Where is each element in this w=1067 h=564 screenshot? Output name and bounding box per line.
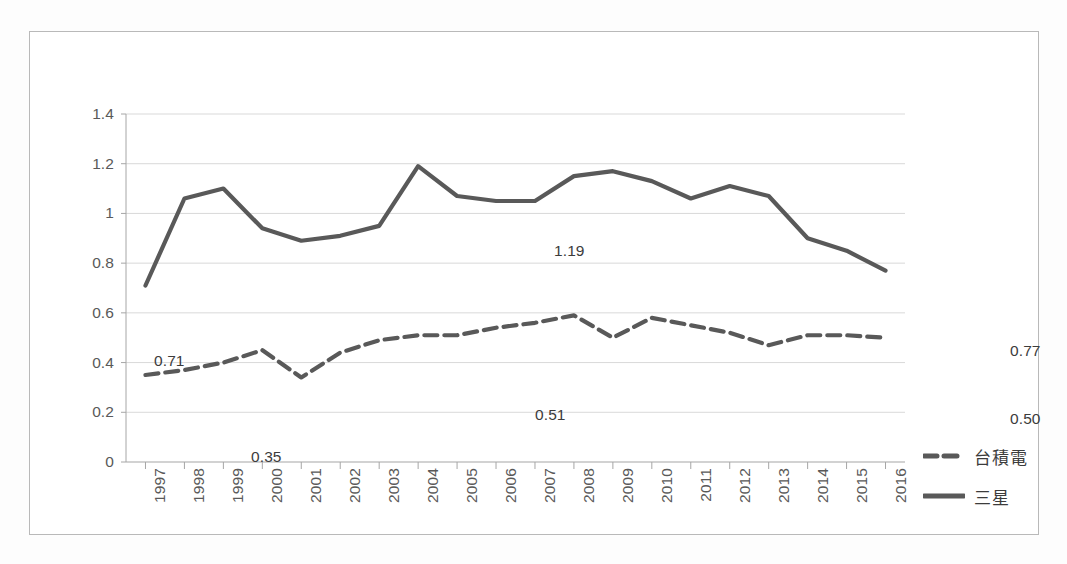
legend-swatch-dashed	[923, 449, 965, 463]
scan-area: 00.20.40.60.811.21.4 0.711.190.770.350.5…	[0, 0, 1067, 564]
x-tick-label: 2012	[736, 468, 754, 503]
y-axis: 00.20.40.60.811.21.4	[62, 114, 114, 462]
legend-label: 台積電	[974, 444, 1028, 469]
data-label: 0.50	[1010, 410, 1041, 428]
series-line-1	[145, 315, 885, 377]
x-tick-label: 2000	[268, 468, 286, 503]
y-tick-label: 0.8	[66, 254, 114, 272]
x-axis: 1997199819992000200120022003200420052006…	[126, 466, 905, 532]
x-tick-label: 2008	[580, 468, 598, 503]
y-tick-label: 0.2	[66, 403, 114, 421]
legend-item-1[interactable]: 台積電	[923, 436, 1053, 476]
data-label: 0.71	[154, 352, 185, 370]
x-tick-label: 2003	[385, 468, 403, 503]
x-tick-label: 1997	[151, 468, 169, 503]
x-tick-label: 2001	[307, 468, 325, 503]
data-label: 0.51	[535, 406, 566, 424]
legend-item-2[interactable]: 三星	[923, 476, 1053, 516]
x-tick-label: 2009	[619, 468, 637, 503]
x-tick-label: 2005	[463, 468, 481, 503]
plot-svg	[126, 114, 905, 462]
x-tick-label: 2004	[424, 468, 442, 503]
legend-label: 三星	[974, 484, 1010, 509]
x-tick-label: 2011	[697, 468, 715, 502]
chart-legend: 台積電三星	[923, 436, 1053, 516]
y-tick-label: 0.4	[66, 354, 114, 372]
series-line-2	[145, 166, 885, 285]
x-tick-label: 1999	[229, 468, 247, 503]
x-tick-label: 2015	[853, 468, 871, 503]
data-label: 1.19	[554, 242, 585, 260]
x-tick-label: 2006	[502, 468, 520, 503]
x-tick-label: 2007	[541, 468, 559, 503]
data-label: 0.35	[251, 448, 282, 466]
y-tick-label: 1.4	[66, 105, 114, 123]
y-tick-label: 0	[66, 453, 114, 471]
x-tick-label: 1998	[190, 468, 208, 503]
y-tick-label: 1.2	[66, 155, 114, 173]
plot-area: 0.711.190.770.350.510.50	[126, 114, 905, 462]
data-label: 0.77	[1010, 342, 1041, 360]
legend-swatch-solid	[923, 489, 965, 503]
x-tick-label: 2013	[775, 468, 793, 503]
x-tick-label: 2002	[346, 468, 364, 503]
x-tick-label: 2010	[658, 468, 676, 503]
y-tick-label: 1	[66, 204, 114, 222]
x-tick-label: 2016	[892, 468, 910, 503]
y-tick-label: 0.6	[66, 304, 114, 322]
x-tick-label: 2014	[814, 468, 832, 503]
chart-frame: 00.20.40.60.811.21.4 0.711.190.770.350.5…	[29, 31, 1039, 535]
